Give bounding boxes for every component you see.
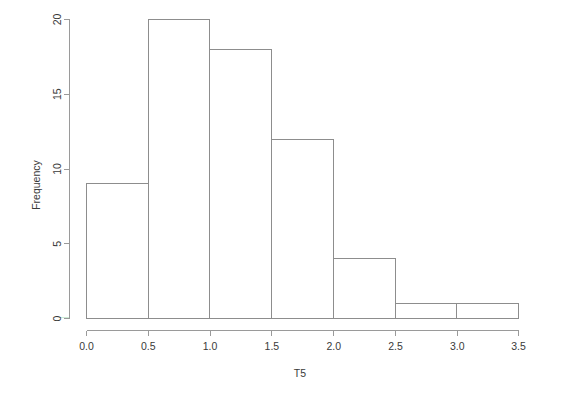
x-tick-label-0: 0.0: [79, 340, 94, 352]
baseline-artifacts: [60, 317, 470, 318]
histogram-plot: 0 5 10 15 20 Frequency: [0, 0, 574, 396]
bar-4: [333, 259, 395, 319]
x-tick-label-2: 1.0: [203, 340, 218, 352]
bar-5: [395, 304, 457, 319]
y-axis-title: Frequency: [30, 159, 42, 209]
y-tick-label-20: 20: [51, 14, 63, 26]
x-tick-label-5: 2.5: [388, 340, 403, 352]
bar-3: [272, 139, 334, 318]
x-axis-title: T5: [294, 367, 306, 379]
bar-2: [210, 49, 272, 318]
plot-canvas: 0 5 10 15 20 Frequency: [0, 0, 574, 396]
x-tick-label-1: 0.5: [141, 340, 156, 352]
y-axis: 0 5 10 15 20 Frequency: [30, 14, 70, 322]
x-tick-label-7: 3.5: [511, 340, 526, 352]
bar-0: [87, 184, 149, 319]
y-tick-label-10: 10: [51, 163, 63, 175]
y-tick-label-5: 5: [51, 241, 63, 247]
x-axis: 0.0 0.5 1.0 1.5 2.0 2.5 3.0 3.5 T5: [79, 331, 526, 380]
bar-6: [457, 304, 519, 319]
y-tick-label-15: 15: [51, 88, 63, 100]
x-tick-label-6: 3.0: [450, 340, 465, 352]
bar-1: [148, 20, 210, 319]
bars-group: [87, 20, 519, 319]
x-tick-label-4: 2.0: [326, 340, 341, 352]
y-tick-label-0: 0: [51, 315, 63, 321]
x-tick-label-3: 1.5: [265, 340, 280, 352]
